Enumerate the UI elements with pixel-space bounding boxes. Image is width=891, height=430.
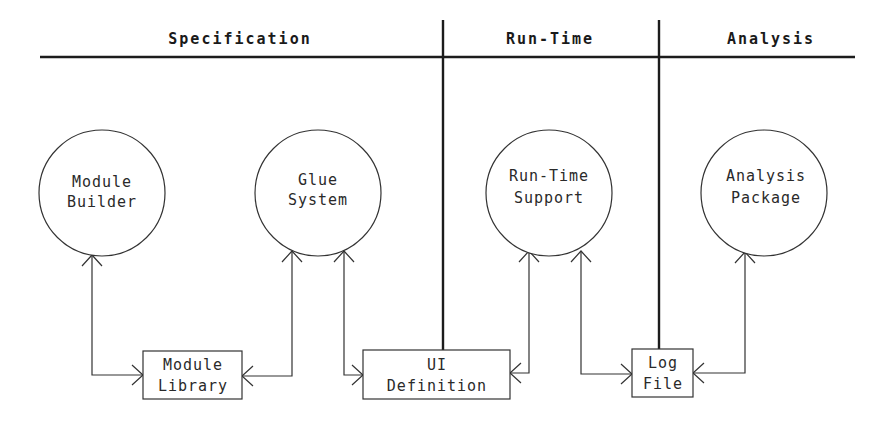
store-label-line1: Log xyxy=(648,354,678,372)
process-label-line1: Run-Time xyxy=(509,167,589,185)
store-label-line2: Definition xyxy=(387,377,487,395)
store-label-line2: Library xyxy=(158,377,228,395)
architecture-diagram: Specification Run-Time Analysis xyxy=(0,0,891,430)
connector-glue-ui-definition xyxy=(344,251,363,375)
process-label-line2: Support xyxy=(514,189,584,207)
process-label-line2: Builder xyxy=(67,193,137,211)
process-label-line1: Module xyxy=(72,173,132,191)
phase-label-run-time: Run-Time xyxy=(506,30,594,48)
phase-label-specification: Specification xyxy=(168,30,311,48)
connector-glue-library xyxy=(242,251,292,376)
connector-module-builder-library xyxy=(92,255,143,375)
store-label-line1: Module xyxy=(163,356,223,374)
connector-runtime-ui-definition xyxy=(510,251,529,373)
phase-label-analysis: Analysis xyxy=(727,30,815,48)
store-label-line2: File xyxy=(643,375,683,393)
process-run-time-support: Run-Time Support xyxy=(486,130,612,256)
store-module-library: Module Library xyxy=(143,351,242,399)
process-module-builder: Module Builder xyxy=(39,130,165,256)
process-label-line2: Package xyxy=(731,189,801,207)
store-ui-definition: UI Definition xyxy=(363,350,510,399)
process-label-line1: Analysis xyxy=(726,167,806,185)
connector-analysis-log xyxy=(693,252,745,373)
store-log-file: Log File xyxy=(632,349,693,397)
process-glue-system: Glue System xyxy=(255,130,381,256)
connector-runtime-log xyxy=(581,251,632,374)
process-label-line2: System xyxy=(288,191,348,209)
process-label-line1: Glue xyxy=(298,171,338,189)
store-label-line1: UI xyxy=(427,356,447,374)
process-analysis-package: Analysis Package xyxy=(701,130,827,256)
